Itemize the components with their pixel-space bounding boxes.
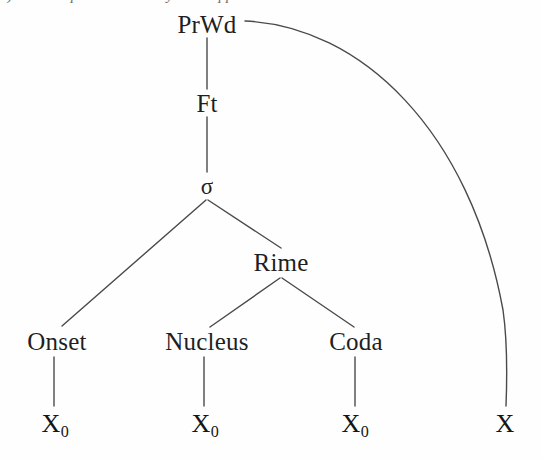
node-prwd: PrWd [177,12,236,37]
edge-sigma-rime [208,200,281,248]
terminal-onset-x0: X0 [42,411,69,437]
terminal-appendix-x: X [496,411,515,437]
node-nucleus: Nucleus [165,329,248,354]
terminal-base: X [342,409,361,438]
edge-sigma-onset [62,200,206,326]
terminal-base: X [496,409,515,438]
terminal-subscript: 0 [61,423,69,440]
clipped-caption-text: a) Minimal prosodic word syllable append… [0,0,300,3]
edge-rime-nucleus [210,278,280,327]
edge-rime-coda [282,278,354,327]
terminal-base: X [192,409,211,438]
node-rime: Rime [254,250,309,275]
prosodic-tree-figure: a) Minimal prosodic word syllable append… [0,0,542,459]
terminal-base: X [42,409,61,438]
node-coda: Coda [329,329,383,354]
node-sigma: σ [201,175,214,198]
terminal-coda-x0: X0 [342,411,369,437]
terminal-subscript: 0 [361,423,369,440]
node-onset: Onset [27,329,86,354]
terminal-subscript: 0 [211,423,219,440]
node-ft: Ft [196,91,217,116]
tree-edges-layer [0,0,542,459]
terminal-nucleus-x0: X0 [192,411,219,437]
